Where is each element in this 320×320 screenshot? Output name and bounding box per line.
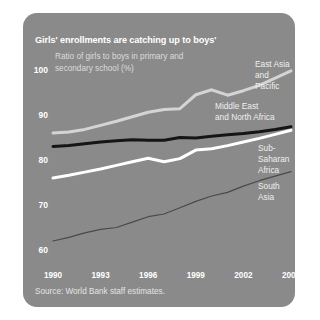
x-axis-tick-1993: 1993	[91, 271, 109, 280]
y-axis-tick-90: 90	[24, 110, 48, 120]
annotation-south-asia: South Asia	[258, 181, 295, 203]
x-axis-tick-1996: 1996	[139, 271, 157, 280]
annotation-sub-saharan: Sub-Saharan Africa	[258, 143, 295, 176]
x-axis-tick-1990: 1990	[44, 271, 62, 280]
y-axis-tick-80: 80	[24, 155, 48, 165]
annotation-east-asia: East Asia and Pacific	[255, 59, 295, 92]
y-axis-tick-100: 100	[24, 65, 48, 75]
series-lines	[23, 13, 295, 307]
y-axis-tick-60: 60	[24, 245, 48, 255]
source-note: Source: World Bank staff estimates.	[35, 287, 165, 296]
chart-panel: Girls' enrollments are catching up to bo…	[23, 13, 295, 307]
x-axis-tick-2002: 2002	[234, 271, 252, 280]
annotation-middle-east: Middle East and North Africa	[215, 101, 275, 123]
plot-area	[23, 13, 295, 307]
x-axis-tick-2005: 2005	[282, 271, 295, 280]
series-line-south-asia	[53, 172, 291, 241]
y-axis-tick-70: 70	[24, 200, 48, 210]
x-axis-tick-1999: 1999	[187, 271, 205, 280]
